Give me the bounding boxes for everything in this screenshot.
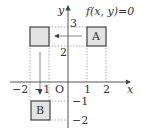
box-a-label: A — [91, 30, 101, 43]
x-tick-neg2: −2 — [12, 83, 28, 96]
y-tick-neg2: −2 — [72, 114, 88, 127]
y-tick-2: 2 — [60, 46, 67, 59]
y-tick-3: 3 — [70, 17, 77, 30]
x-axis-label: x — [127, 83, 134, 96]
x-tick-2: 2 — [103, 83, 110, 96]
function-label: f(x, y)=0 — [85, 5, 134, 18]
y-axis-label: y — [57, 4, 65, 17]
x-tick-neg1: −1 — [34, 83, 50, 96]
origin-label: O — [55, 83, 64, 96]
box-unlabeled — [30, 27, 49, 46]
y-tick-neg1: −1 — [72, 95, 88, 108]
box-b-label: B — [36, 104, 44, 117]
coordinate-diagram: A B f(x, y)=0 y x O −2 −1 1 2 3 2 −1 −2 — [0, 0, 145, 131]
